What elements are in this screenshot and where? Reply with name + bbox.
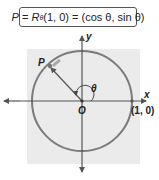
- unit-point-marker: [130, 99, 133, 102]
- unit-point-label: (1, 0): [131, 105, 154, 116]
- angle-theta-label: θ: [91, 83, 97, 94]
- y-axis-label: y: [85, 31, 92, 42]
- point-p-label: P: [38, 57, 45, 68]
- point-p-marker: [48, 64, 52, 68]
- unit-circle-diagram: y x O P θ (1, 0): [0, 0, 159, 180]
- x-axis-label: x: [143, 89, 150, 100]
- origin-label: O: [78, 105, 86, 116]
- origin-marker: [80, 99, 83, 102]
